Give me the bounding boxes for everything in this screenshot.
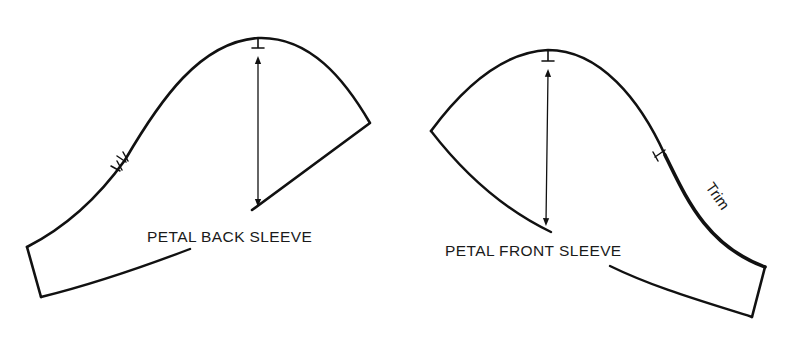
front-grainline-arrow xyxy=(546,73,548,222)
front-sleeve-hem-curve xyxy=(610,266,752,317)
back-sleeve-piece xyxy=(27,38,370,297)
front-top-notch-icon xyxy=(542,51,554,61)
back-top-notch-icon xyxy=(252,39,264,48)
front-sleeve-trim-edge xyxy=(665,155,765,267)
front-notch-icon xyxy=(653,150,665,161)
trim-annotation: Trim xyxy=(703,179,734,213)
front-sleeve-side-edge xyxy=(752,267,765,317)
front-sleeve-label: PETAL FRONT SLEEVE xyxy=(445,242,622,259)
back-sleeve-label: PETAL BACK SLEEVE xyxy=(147,228,312,245)
sleeve-pattern-diagram: PETAL BACK SLEEVE PETAL FRONT SLEEVE Tri… xyxy=(0,0,788,346)
back-sleeve-cap-outline xyxy=(27,38,370,247)
front-sleeve-underarm-curve xyxy=(431,131,551,232)
back-sleeve-side-edge xyxy=(27,247,41,297)
back-sleeve-hem-curve xyxy=(41,249,190,297)
